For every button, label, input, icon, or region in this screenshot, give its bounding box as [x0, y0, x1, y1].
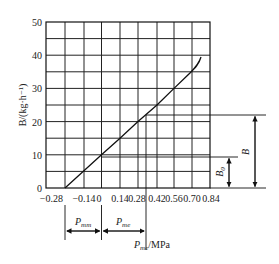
- svg-text:0.28: 0.28: [128, 193, 146, 204]
- svg-text:0: 0: [97, 193, 102, 204]
- b-label: B: [240, 149, 251, 155]
- svg-text:30: 30: [32, 83, 42, 94]
- y-axis-label: B/(kg·h⁻¹): [17, 84, 29, 127]
- x-axis-label: Pme/MPa: [133, 239, 171, 252]
- pmm-label: Pmm: [74, 216, 91, 229]
- horizontal-gridlines: [46, 39, 210, 172]
- svg-text:0.70: 0.70: [183, 193, 201, 204]
- svg-text:0.42: 0.42: [148, 193, 166, 204]
- svg-text:10: 10: [32, 150, 42, 161]
- svg-text:0.84: 0.84: [202, 193, 220, 204]
- svg-text:0.56: 0.56: [165, 193, 183, 204]
- svg-text:50: 50: [32, 17, 42, 28]
- y-tick-labels: 0 10 20 30 40 50: [32, 17, 42, 194]
- b0-label: B0: [214, 167, 227, 177]
- svg-text:40: 40: [32, 50, 42, 61]
- svg-text:−0.28: −0.28: [40, 193, 63, 204]
- pme-label: Pme: [115, 216, 130, 229]
- fuel-consumption-curve: [65, 57, 201, 188]
- x-tick-labels: −0.28 −0.14 0 0.14 0.28 0.42 0.56 0.70 0…: [40, 193, 220, 204]
- svg-text:0.14: 0.14: [111, 193, 129, 204]
- svg-text:−0.14: −0.14: [72, 193, 95, 204]
- svg-text:20: 20: [32, 117, 42, 128]
- chart: 0 10 20 30 40 50 −0.28 −0.14 0 0.14 0.28…: [0, 0, 279, 264]
